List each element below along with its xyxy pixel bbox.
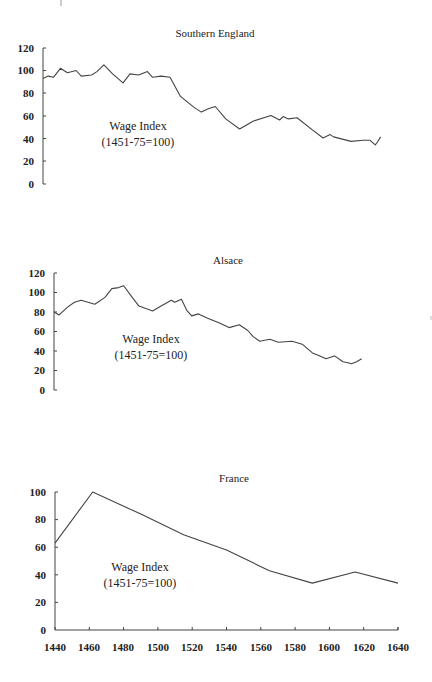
- y-tick-label: 60: [34, 325, 46, 337]
- x-tick-label: 1520: [181, 641, 204, 653]
- y-tick-label: 0: [40, 384, 46, 396]
- annotation-base: (1451-75=100): [102, 135, 175, 149]
- y-tick-label: 60: [23, 110, 35, 122]
- annotation-label: Wage Index: [122, 332, 179, 346]
- y-tick-label: 80: [23, 87, 35, 99]
- x-tick-label: 1620: [353, 641, 376, 653]
- y-tick-labels: 120 100 80 60 40 20 0: [29, 267, 46, 396]
- annotation-label: Wage Index: [111, 560, 168, 574]
- chart-title: Southern England: [175, 27, 255, 39]
- series-line-alsace: [54, 286, 362, 364]
- x-tick-label: 1600: [318, 641, 341, 653]
- wage-index-charts: Southern England 120 100 80 60 40 20 0 W…: [0, 0, 432, 682]
- y-tick-label: 0: [29, 178, 35, 190]
- x-tick-label: 1560: [250, 641, 273, 653]
- y-tick-label: 40: [23, 133, 35, 145]
- y-tick-label: 100: [18, 64, 35, 76]
- annotation-label: Wage Index: [109, 119, 166, 133]
- x-tick-label: 1540: [215, 641, 238, 653]
- chart-southern-england: Southern England 120 100 80 60 40 20 0 W…: [18, 27, 381, 190]
- y-tick-label: 20: [34, 364, 46, 376]
- x-tick-label: 1640: [387, 641, 410, 653]
- series-line-france: [55, 492, 398, 583]
- series-line-southern-england: [43, 65, 381, 145]
- x-tick-label: 1480: [112, 641, 135, 653]
- chart-title: Alsace: [213, 254, 243, 266]
- x-tick-label: 1460: [78, 641, 101, 653]
- chart-alsace: Alsace 120 100 80 60 40 20 0 Wage Index …: [29, 254, 432, 396]
- y-tick-label: 100: [29, 286, 46, 298]
- annotation-base: (1451-75=100): [104, 576, 177, 590]
- y-tick-label: 60: [35, 541, 47, 553]
- y-tick-label: 120: [18, 42, 35, 54]
- y-tick-label: 100: [30, 486, 47, 498]
- y-tick-label: 0: [41, 624, 47, 636]
- axes: [55, 492, 398, 630]
- x-tick-label: 1580: [284, 641, 307, 653]
- annotation-base: (1451-75=100): [115, 348, 188, 362]
- x-tick-label: 1440: [44, 641, 67, 653]
- y-tick-labels: 120 100 80 60 40 20 0: [18, 42, 35, 190]
- x-tick-label: 1500: [147, 641, 170, 653]
- y-tick-label: 80: [35, 513, 47, 525]
- y-tick-label: 40: [34, 345, 46, 357]
- y-tick-labels: 100 80 60 40 20 0: [30, 486, 47, 636]
- x-tick-labels: 1440 1460 1480 1500 1520 1540 1560 1580 …: [44, 641, 410, 653]
- y-tick-label: 20: [23, 155, 35, 167]
- y-tick-label: 80: [34, 306, 46, 318]
- chart-title: France: [219, 472, 249, 484]
- y-tick-label: 120: [29, 267, 46, 279]
- y-tick-label: 20: [35, 596, 47, 608]
- chart-france: France 100 80 60 40 20 0 1440 1460 1480 …: [30, 472, 410, 653]
- y-tick-label: 40: [35, 569, 47, 581]
